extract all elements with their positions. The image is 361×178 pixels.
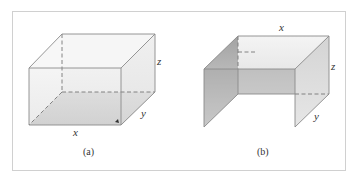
box-a-front-face xyxy=(29,68,121,125)
box-b-z-label: z xyxy=(330,60,336,72)
panel-a: z y x (a) xyxy=(29,34,162,158)
box-a-x-label: x xyxy=(72,126,78,138)
box-b-y-label: y xyxy=(313,110,319,122)
panel-b-caption: (b) xyxy=(257,146,269,158)
box-a-z-label: z xyxy=(156,55,162,67)
panel-b: x z y (b) xyxy=(204,21,336,158)
box-b-x-label: x xyxy=(278,21,284,33)
panel-a-caption: (a) xyxy=(83,146,94,158)
box-a-y-label: y xyxy=(140,107,146,119)
box-diagram: z y x (a) xyxy=(0,0,361,178)
box-b-left-wall-shade xyxy=(204,69,238,127)
